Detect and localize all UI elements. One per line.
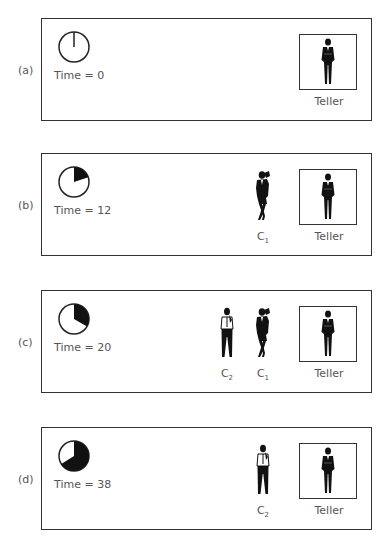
time-label: Time = 20 bbox=[54, 341, 111, 354]
customer-c2-figure-icon bbox=[215, 307, 239, 359]
teller-box bbox=[299, 443, 357, 499]
teller-box bbox=[299, 34, 357, 90]
teller-figure-icon bbox=[316, 173, 340, 221]
teller-label: Teller bbox=[306, 504, 352, 517]
teller-figure-icon bbox=[316, 310, 340, 358]
panel-c: Time = 20 C2 C1 Teller bbox=[41, 290, 372, 393]
panel-d: Time = 38 C2 Teller bbox=[41, 427, 372, 530]
clock-icon bbox=[57, 439, 91, 473]
panel-label-a: (a) bbox=[18, 64, 33, 77]
customer-c2-figure-icon bbox=[251, 444, 275, 496]
panel-b: Time = 12 C1 Teller bbox=[41, 153, 372, 256]
clock-icon bbox=[57, 30, 91, 64]
teller-label: Teller bbox=[306, 230, 352, 243]
clock-icon bbox=[57, 302, 91, 336]
panel-label-c: (c) bbox=[18, 336, 33, 349]
time-label: Time = 12 bbox=[54, 204, 111, 217]
panel-label-b: (b) bbox=[18, 199, 34, 212]
teller-label: Teller bbox=[306, 367, 352, 380]
teller-figure-icon bbox=[316, 447, 340, 495]
teller-label: Teller bbox=[306, 95, 352, 108]
customer-c1-figure-icon bbox=[251, 170, 275, 222]
customer-label-c1: C1 bbox=[253, 367, 273, 382]
panel-a: Time = 0 Teller bbox=[41, 18, 372, 121]
teller-figure-icon bbox=[316, 38, 340, 86]
clock-icon bbox=[57, 165, 91, 199]
panel-label-d: (d) bbox=[18, 473, 34, 486]
time-label: Time = 0 bbox=[54, 69, 104, 82]
customer-label-c1: C1 bbox=[253, 230, 273, 245]
teller-box bbox=[299, 306, 357, 362]
customer-c1-figure-icon bbox=[251, 307, 275, 359]
teller-box bbox=[299, 169, 357, 225]
customer-label-c2: C2 bbox=[253, 504, 273, 519]
time-label: Time = 38 bbox=[54, 478, 111, 491]
customer-label-c2: C2 bbox=[217, 367, 237, 382]
